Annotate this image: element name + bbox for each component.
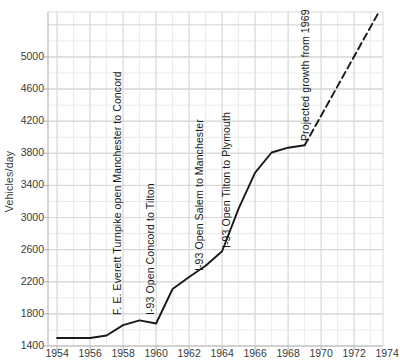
annotation-i93-tilton-plymouth: I-93 Open Tilton to Plymouth	[220, 112, 232, 248]
annotation-projected-growth: Projected growth from 1969	[299, 10, 311, 142]
annotation-i93-concord-tilton: I-93 Open Concord to Tilton	[144, 184, 156, 316]
gridlines-major	[48, 12, 383, 346]
annotation-everett-turnpike: F. E. Everett Turnpike open Manchester t…	[111, 72, 123, 316]
data-series-dashed	[305, 12, 379, 145]
gridlines-minor	[48, 12, 383, 346]
annotation-i93-salem-manchester: I-93 Open Salem to Manchester	[193, 120, 205, 272]
traffic-growth-chart: Vehicles/day 140018002200260030003400380…	[0, 0, 400, 363]
data-series-solid	[57, 145, 305, 338]
